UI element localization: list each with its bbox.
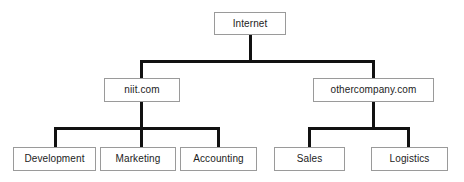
- connector-niit-down: [140, 101, 143, 147]
- node-accounting[interactable]: Accounting: [180, 147, 257, 171]
- node-othercompany-com-label: othercompany.com: [331, 85, 417, 95]
- node-development-label: Development: [24, 154, 84, 164]
- node-othercompany-com[interactable]: othercompany.com: [313, 78, 434, 102]
- connector-internet-down: [249, 34, 252, 62]
- node-accounting-label: Accounting: [193, 154, 243, 164]
- connector-bus-to-logistics: [407, 127, 410, 147]
- connector-bus-to-development: [54, 127, 57, 147]
- node-niit-com[interactable]: niit.com: [104, 78, 180, 102]
- node-logistics-label: Logistics: [390, 154, 430, 164]
- node-logistics[interactable]: Logistics: [371, 147, 448, 171]
- connector-bus-to-sales: [308, 127, 311, 147]
- node-marketing-label: Marketing: [116, 154, 161, 164]
- connector-bus-to-niit: [140, 60, 143, 78]
- connector-othercompany-down: [372, 101, 375, 129]
- connector-bus-othercompany-children: [308, 127, 410, 130]
- node-development[interactable]: Development: [13, 147, 96, 171]
- node-internet[interactable]: Internet: [214, 12, 286, 35]
- connector-bus-niit-children: [54, 127, 220, 130]
- node-sales-label: Sales: [297, 154, 323, 164]
- connector-bus-level1: [140, 60, 375, 63]
- node-marketing[interactable]: Marketing: [100, 147, 176, 171]
- node-internet-label: Internet: [233, 19, 268, 29]
- connector-bus-to-accounting: [217, 127, 220, 147]
- network-hierarchy-diagram: Internet niit.com othercompany.com Devel…: [0, 0, 464, 182]
- node-niit-com-label: niit.com: [124, 85, 159, 95]
- connector-bus-to-othercompany: [372, 60, 375, 78]
- node-sales[interactable]: Sales: [274, 147, 345, 171]
